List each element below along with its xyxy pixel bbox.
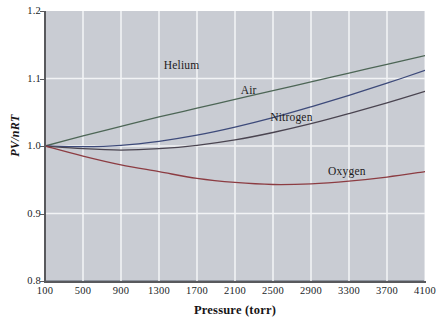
y-tick-mark [40,11,45,12]
x-tick-label: 4100 [403,286,439,297]
curve-label-air: Air [241,84,257,96]
y-axis-title: PV/nRT [8,101,23,171]
x-axis-line [44,281,426,283]
y-tick-label: 1.1 [9,74,41,85]
plot-svg [45,11,425,281]
y-tick-mark [40,281,45,282]
y-tick-mark [40,214,45,215]
y-tick-mark [40,146,45,147]
plot-area [45,11,425,281]
chart-figure: 0.80.91.01.11.2 100500900130017002100250… [0,0,439,323]
curve-label-helium: Helium [164,59,200,71]
y-tick-label: 0.9 [9,209,41,220]
x-axis-title: Pressure (torr) [45,303,425,318]
y-tick-mark [40,79,45,80]
curve-label-oxygen: Oxygen [328,165,366,177]
y-tick-label: 1.2 [9,6,41,17]
curve-label-nitrogen: Nitrogen [270,111,312,123]
